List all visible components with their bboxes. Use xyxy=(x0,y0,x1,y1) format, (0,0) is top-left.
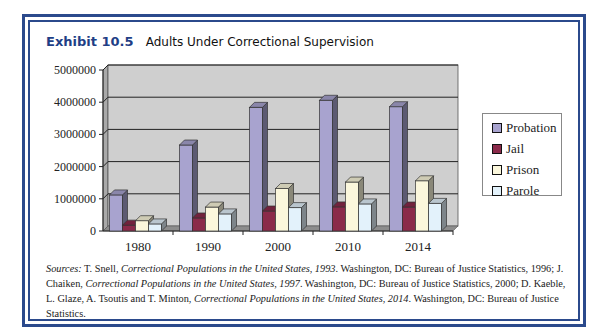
x-tick-label: 2014 xyxy=(405,239,432,254)
legend-label: Jail xyxy=(506,141,524,157)
sources-label: Sources: xyxy=(46,263,82,274)
x-tick-label: 2010 xyxy=(335,239,361,254)
y-tick-label: 2000000 xyxy=(54,160,96,174)
y-tick-label: 5000000 xyxy=(54,63,96,77)
bar-parole-1990 xyxy=(219,209,237,231)
legend-item-parole: Parole xyxy=(492,180,561,201)
legend-swatch-icon xyxy=(492,123,502,133)
y-tick-label: 1000000 xyxy=(54,192,96,206)
y-tick-label: 0 xyxy=(90,224,96,238)
x-tick-label: 1980 xyxy=(125,239,151,254)
source-2-title: Correctional Populations in the United S… xyxy=(85,278,299,289)
legend-label: Probation xyxy=(506,120,557,136)
bar-parole-2010 xyxy=(359,199,377,231)
legend-swatch-icon xyxy=(492,144,502,154)
bar-parole-1980 xyxy=(149,219,167,231)
source-1-publisher: . Washington, DC: Bureau of Justice Stat… xyxy=(335,263,554,274)
sources-note: Sources: T. Snell, Correctional Populati… xyxy=(46,261,566,321)
legend-item-prison: Prison xyxy=(492,159,561,180)
bar-parole-2014 xyxy=(429,198,447,231)
legend-swatch-icon xyxy=(492,186,502,196)
source-1-title: Correctional Populations in the United S… xyxy=(121,263,335,274)
x-tick-label: 1990 xyxy=(195,239,221,254)
x-tick-label: 2000 xyxy=(265,239,291,254)
legend-swatch-icon xyxy=(492,165,502,175)
y-tick-label: 3000000 xyxy=(54,127,96,141)
bar-parole-2000 xyxy=(289,203,307,231)
side-wall xyxy=(103,65,108,231)
legend-label: Prison xyxy=(506,162,539,178)
chart-legend: ProbationJailPrisonParole xyxy=(482,113,562,196)
source-1-author: T. Snell, xyxy=(84,263,118,274)
legend-item-jail: Jail xyxy=(492,138,561,159)
source-3-title: Correctional Populations in the United S… xyxy=(194,293,408,304)
legend-item-probation: Probation xyxy=(492,117,561,138)
legend-label: Parole xyxy=(506,183,539,199)
y-tick-label: 4000000 xyxy=(54,95,96,109)
